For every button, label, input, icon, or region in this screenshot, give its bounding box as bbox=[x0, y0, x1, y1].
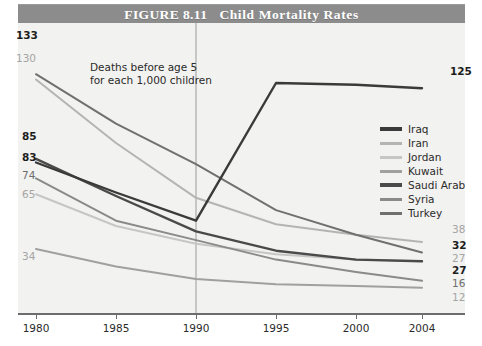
legend-item-iran[interactable]: Iran bbox=[380, 137, 465, 149]
annotation-deaths-line1: Deaths before age 5 bbox=[90, 61, 212, 74]
x-tick-1985 bbox=[116, 313, 117, 319]
chart-legend: IraqIranJordanKuwaitSaudi ArabiaSyriaTur… bbox=[380, 123, 465, 219]
value-label-right-12-6: 12 bbox=[452, 292, 465, 303]
value-label-right-27-4: 27 bbox=[452, 265, 467, 276]
value-label-left-34-6: 34 bbox=[22, 251, 35, 262]
annotation-deaths-line2: for each 1,000 children bbox=[90, 74, 212, 87]
x-tick-2004 bbox=[422, 313, 423, 319]
legend-item-iraq[interactable]: Iraq bbox=[380, 123, 465, 135]
legend-item-jordan[interactable]: Jordan bbox=[380, 151, 465, 163]
series-line-syria bbox=[36, 178, 422, 280]
x-tick-2000 bbox=[356, 313, 357, 319]
x-axis-label-1990: 1990 bbox=[183, 322, 210, 334]
value-label-right-27-3: 27 bbox=[452, 253, 465, 264]
value-label-right-32-2: 32 bbox=[452, 240, 467, 251]
legend-swatch-icon bbox=[380, 170, 402, 173]
x-axis-label-2004: 2004 bbox=[409, 322, 436, 334]
legend-item-kuwait[interactable]: Kuwait bbox=[380, 165, 465, 177]
legend-item-syria[interactable]: Syria bbox=[380, 193, 465, 205]
legend-item-saudi-arabia[interactable]: Saudi Arabia bbox=[380, 179, 465, 191]
legend-item-label: Kuwait bbox=[408, 165, 443, 177]
value-label-right-125-0: 125 bbox=[450, 66, 472, 77]
legend-item-label: Jordan bbox=[408, 151, 441, 163]
x-axis-label-1995: 1995 bbox=[263, 322, 290, 334]
x-axis-line bbox=[18, 313, 465, 315]
series-line-iraq bbox=[36, 83, 422, 221]
x-axis-label-2000: 2000 bbox=[343, 322, 370, 334]
x-axis-label-1980: 1980 bbox=[23, 322, 50, 334]
value-label-right-16-5: 16 bbox=[452, 278, 465, 289]
legend-swatch-icon bbox=[380, 127, 402, 131]
x-tick-1995 bbox=[276, 313, 277, 319]
legend-item-turkey[interactable]: Turkey bbox=[380, 207, 465, 219]
legend-swatch-icon bbox=[380, 142, 402, 145]
value-label-left-85-2: 85 bbox=[22, 131, 37, 142]
value-label-right-38-1: 38 bbox=[452, 224, 465, 235]
figure-title-bar: FIGURE 8.11 Child Mortality Rates bbox=[18, 4, 465, 24]
legend-swatch-icon bbox=[380, 212, 402, 215]
x-axis-label-1985: 1985 bbox=[103, 322, 130, 334]
figure-number: FIGURE 8.11 bbox=[124, 7, 207, 23]
x-tick-1990 bbox=[196, 313, 197, 319]
legend-item-label: Saudi Arabia bbox=[408, 179, 465, 191]
value-label-left-133-0: 133 bbox=[16, 30, 38, 41]
legend-item-label: Syria bbox=[408, 193, 435, 205]
page-title: Child Mortality Rates bbox=[219, 7, 358, 23]
legend-swatch-icon bbox=[380, 156, 402, 159]
value-label-left-74-4: 74 bbox=[22, 170, 35, 181]
legend-swatch-icon bbox=[380, 183, 402, 187]
series-line-jordan bbox=[36, 194, 422, 261]
legend-item-label: Turkey bbox=[408, 207, 442, 219]
series-line-kuwait bbox=[36, 249, 422, 288]
value-label-left-130-1: 130 bbox=[16, 53, 36, 64]
figure-child-mortality: FIGURE 8.11 Child Mortality Rates Deaths… bbox=[0, 0, 482, 346]
x-tick-1980 bbox=[36, 313, 37, 319]
legend-item-label: Iran bbox=[408, 137, 429, 149]
legend-swatch-icon bbox=[380, 198, 402, 201]
value-label-left-65-5: 65 bbox=[22, 189, 35, 200]
plot-area: Deaths before age 5 for each 1,000 child… bbox=[18, 23, 465, 313]
annotation-deaths-caption: Deaths before age 5 for each 1,000 child… bbox=[90, 61, 212, 87]
value-label-left-83-3: 83 bbox=[22, 152, 37, 163]
legend-item-label: Iraq bbox=[408, 123, 429, 135]
